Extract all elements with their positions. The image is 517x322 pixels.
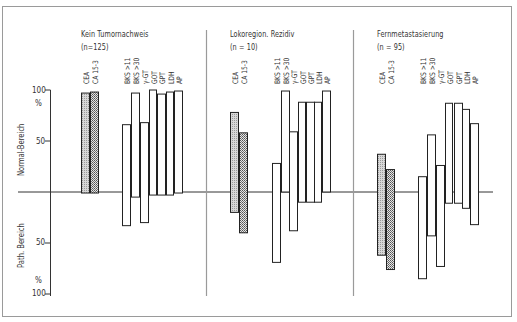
ylabel-path: Path. Bereich <box>17 223 26 268</box>
category-label: AP <box>175 76 184 84</box>
bar-gpt <box>455 103 463 203</box>
bar-bks-30 <box>132 93 140 197</box>
bar-ldh <box>167 92 174 195</box>
category-label: BKS >11 <box>123 58 132 84</box>
panel-3-n: (n = 95) <box>377 42 405 52</box>
category-label: AP <box>323 76 332 84</box>
panel-2-title: Lokoregion. Rezidiv <box>230 29 294 39</box>
ytick-normal-50: 50 <box>36 136 45 146</box>
category-label: γ-GT <box>437 70 446 84</box>
ytick-path-50: 50 <box>36 237 45 247</box>
bar-ca-15-3 <box>91 92 99 193</box>
bar-ap <box>175 91 183 193</box>
panel-2-n: (n = 10) <box>230 42 258 52</box>
bar-gpt <box>307 102 315 202</box>
range-bar-chart <box>0 0 517 322</box>
bars-group <box>82 90 479 279</box>
ytick-path-100: 100 <box>32 288 46 298</box>
ylabel-normal: Normal-Bereich <box>17 124 26 176</box>
panel-1-n: (n=125) <box>81 42 109 52</box>
ytick-normal-unit: % <box>35 98 42 108</box>
panel-3-title: Fernmetastasierung <box>377 29 444 39</box>
category-label: AP <box>471 76 480 84</box>
category-label: γ-GT <box>290 70 299 84</box>
bar-bks-11 <box>123 125 131 226</box>
category-label: GPT <box>158 72 167 84</box>
bar-bks-11 <box>419 177 427 279</box>
category-label: CA 15-3 <box>240 60 249 84</box>
bar-ca-15-3 <box>387 170 395 270</box>
category-label: BKS >11 <box>419 58 428 84</box>
bar--gt <box>437 165 445 266</box>
category-label: BKS >30 <box>132 58 141 84</box>
bar-cea <box>231 112 239 212</box>
ytick-path-unit: % <box>35 275 42 285</box>
bar-bks-30 <box>282 91 290 192</box>
category-label: CA 15-3 <box>91 60 100 84</box>
category-label: GOT <box>446 71 455 84</box>
bar--gt <box>290 132 298 231</box>
bar-ca-15-3 <box>240 133 248 233</box>
category-label: CEA <box>231 72 240 84</box>
bar-got <box>150 90 157 195</box>
category-label: γ-GT <box>141 70 150 84</box>
bar-cea <box>378 154 386 255</box>
ytick-normal-100: 100 <box>32 85 46 95</box>
panel-1-title: Kein Tumornachweis <box>81 29 149 39</box>
bar-ap <box>471 124 479 225</box>
category-label: BKS >11 <box>273 58 282 84</box>
bar-bks-30 <box>428 135 436 236</box>
category-label: BKS >30 <box>428 58 437 84</box>
bar-gpt <box>158 94 166 195</box>
bar-ldh <box>463 109 470 208</box>
bar-cea <box>82 93 90 193</box>
bar-ldh <box>315 102 322 202</box>
bar-bks-11 <box>273 163 281 262</box>
bar-got <box>446 103 453 203</box>
category-label: CA 15-3 <box>387 60 396 84</box>
bar-got <box>299 102 306 202</box>
category-label: CEA <box>82 72 91 84</box>
bar--gt <box>141 123 149 223</box>
bar-ap <box>323 91 331 192</box>
category-label: CEA <box>378 72 387 84</box>
